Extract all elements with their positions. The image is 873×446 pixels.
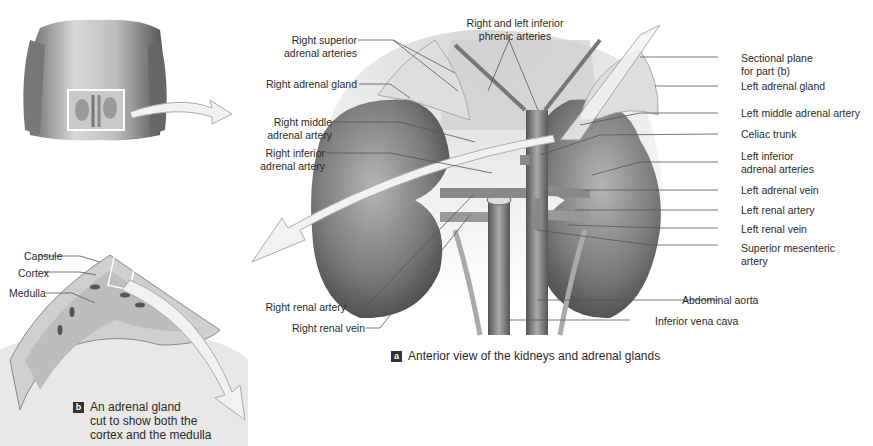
- caption-b-line: cortex and the medulla: [73, 428, 211, 442]
- label-abdominal-aorta: Abdominal aorta: [682, 294, 758, 307]
- label-superior-mesenteric-artery: Superior mesenteric artery: [741, 242, 835, 267]
- caption-a: aAnterior view of the kidneys and adrena…: [391, 349, 660, 363]
- label-left-renal-vein: Left renal vein: [741, 223, 807, 236]
- label-inferior-phrenic-arteries: Right and left inferior phrenic arteries: [455, 17, 575, 42]
- label-medulla: Medulla: [9, 287, 46, 300]
- label-right-middle-adrenal-artery: Right middle adrenal artery: [240, 116, 332, 141]
- label-left-adrenal-vein: Left adrenal vein: [741, 184, 819, 197]
- label-left-middle-adrenal-artery: Left middle adrenal artery: [741, 107, 860, 120]
- label-sectional-plane: Sectional plane for part (b): [741, 52, 813, 77]
- caption-b-line: cut to show both the: [73, 414, 211, 428]
- label-line: adrenal artery: [230, 160, 325, 173]
- label-left-inferior-adrenal-arteries: Left inferior adrenal arteries: [741, 150, 814, 175]
- caption-b-line: An adrenal gland: [90, 400, 181, 414]
- figure-badge-b: b: [73, 402, 84, 413]
- label-line: Right inferior: [230, 147, 325, 160]
- inferior-vena-cava: [488, 200, 510, 335]
- label-capsule: Capsule: [24, 250, 63, 263]
- label-line: adrenal artery: [240, 129, 332, 142]
- label-inferior-vena-cava: Inferior vena cava: [655, 315, 738, 328]
- label-celiac-trunk: Celiac trunk: [741, 128, 796, 141]
- label-left-renal-artery: Left renal artery: [741, 204, 815, 217]
- torso-thumbnail: [23, 20, 166, 141]
- label-line: phrenic arteries: [455, 30, 575, 43]
- label-line: Right and left inferior: [455, 17, 575, 30]
- label-line: Sectional plane: [741, 52, 813, 65]
- label-line: Right middle: [240, 116, 332, 129]
- label-right-adrenal-gland: Right adrenal gland: [240, 78, 357, 91]
- caption-a-text: Anterior view of the kidneys and adrenal…: [408, 349, 660, 363]
- label-line: for part (b): [741, 65, 813, 78]
- label-right-inferior-adrenal-artery: Right inferior adrenal artery: [230, 147, 325, 172]
- label-line: adrenal arteries: [741, 163, 814, 176]
- label-right-renal-vein: Right renal vein: [270, 322, 365, 335]
- label-right-superior-adrenal-arteries: Right superior adrenal arteries: [265, 34, 357, 59]
- label-line: Right superior: [265, 34, 357, 47]
- label-right-renal-artery: Right renal artery: [235, 301, 346, 314]
- label-line: Superior mesenteric: [741, 242, 835, 255]
- label-line: adrenal arteries: [265, 47, 357, 60]
- label-line: Left inferior: [741, 150, 814, 163]
- kidney-diagram: [311, 25, 665, 335]
- caption-b: bAn adrenal gland cut to show both the c…: [73, 400, 211, 442]
- label-line: artery: [741, 255, 835, 268]
- label-left-adrenal-gland: Left adrenal gland: [741, 80, 825, 93]
- figure-badge-a: a: [391, 351, 402, 362]
- label-cortex: Cortex: [18, 267, 49, 280]
